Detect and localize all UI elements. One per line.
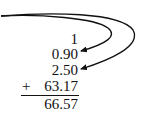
addend-1: 1 xyxy=(71,32,79,47)
addend-2: 0.90 xyxy=(52,47,78,62)
addend-4: 63.17 xyxy=(44,79,78,94)
plus-sign: + xyxy=(22,79,30,94)
sum-value: 66.57 xyxy=(44,97,78,112)
addend-3: 2.50 xyxy=(52,63,78,78)
